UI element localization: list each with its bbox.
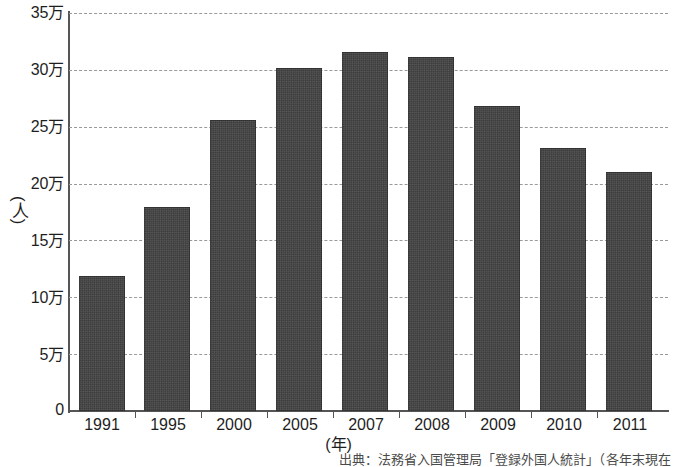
bar-slot [474,106,520,411]
x-tick-label-1991: 1991 [66,416,138,434]
bar-slot [210,120,256,411]
x-tick-label-2005: 2005 [264,416,336,434]
bar-1991 [79,276,125,411]
y-tick-label: 20万 [4,176,64,192]
bar-slot [606,172,652,411]
bar-2007 [342,52,388,411]
bar-slot [144,207,190,411]
gridline [69,13,668,14]
bar-slot [79,276,125,411]
y-tick-label: 35万 [4,5,64,21]
bar-slot [342,52,388,411]
y-tick-label: 5万 [4,347,64,363]
bar-slot [540,148,586,411]
x-tick-label-2009: 2009 [462,416,534,434]
bar-2005 [276,68,322,411]
y-tick-label: 10万 [4,290,64,306]
y-tick-label: 30万 [4,62,64,78]
source-note: 出典：法務省入国管理局「登録外国人統計」（各年末現在 [0,452,671,467]
bar-2008 [408,57,454,411]
y-tick-label: 0 [4,402,64,418]
plot-area [69,13,668,411]
y-axis-title: (人) [2,196,28,224]
bar-1995 [144,207,190,411]
x-tick-label-1995: 1995 [132,416,204,434]
x-tick-label-2007: 2007 [330,416,402,434]
bar-2009 [474,106,520,411]
y-tick-label: 15万 [4,233,64,249]
bar-2000 [210,120,256,411]
x-tick-label-2008: 2008 [396,416,468,434]
bar-2010 [540,148,586,411]
x-tick-label-2000: 2000 [198,416,270,434]
x-tick-label-2011: 2011 [594,416,666,434]
x-tick-label-2010: 2010 [528,416,600,434]
y-tick-label: 25万 [4,119,64,135]
bar-2011 [606,172,652,411]
bar-slot [408,57,454,411]
bar-slot [276,68,322,411]
